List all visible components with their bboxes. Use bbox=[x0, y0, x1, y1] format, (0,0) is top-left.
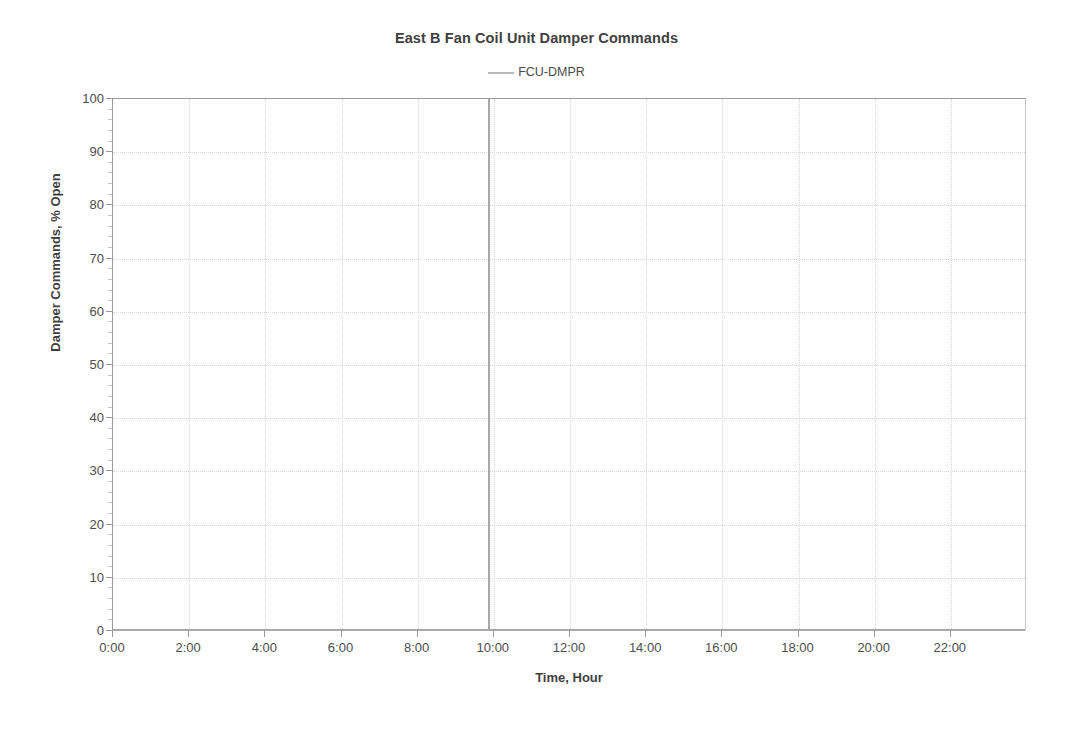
y-axis-minor-tick bbox=[108, 609, 112, 610]
x-axis-tick-label: 20:00 bbox=[857, 640, 890, 655]
y-axis-tick-label: 30 bbox=[62, 463, 104, 478]
y-axis-minor-tick bbox=[108, 268, 112, 269]
chart-title: East B Fan Coil Unit Damper Commands bbox=[0, 30, 1073, 46]
x-axis-tick bbox=[645, 630, 646, 637]
x-axis-tick-label: 10:00 bbox=[477, 640, 510, 655]
y-axis-tick-label: 10 bbox=[62, 569, 104, 584]
y-axis-minor-tick bbox=[108, 396, 112, 397]
x-axis-tick-label: 4:00 bbox=[252, 640, 277, 655]
y-axis-minor-tick bbox=[108, 236, 112, 237]
x-axis-tick bbox=[950, 630, 951, 637]
x-axis-tick-label: 16:00 bbox=[705, 640, 738, 655]
x-axis-tick bbox=[112, 630, 113, 637]
y-axis-minor-tick bbox=[108, 460, 112, 461]
y-axis-minor-tick bbox=[108, 332, 112, 333]
x-axis-tick bbox=[721, 630, 722, 637]
y-axis-minor-tick bbox=[108, 172, 112, 173]
series-spike bbox=[488, 99, 490, 631]
gridline-vertical bbox=[951, 99, 952, 629]
gridline-horizontal bbox=[113, 418, 1025, 419]
legend-item-label: FCU-DMPR bbox=[518, 65, 585, 79]
y-axis-minor-tick bbox=[108, 545, 112, 546]
x-axis-tick-label: 22:00 bbox=[934, 640, 967, 655]
y-axis-minor-tick bbox=[108, 183, 112, 184]
x-axis-tick bbox=[417, 630, 418, 637]
legend-item-fcu-dmpr: FCU-DMPR bbox=[488, 65, 585, 79]
gridline-vertical bbox=[494, 99, 495, 629]
y-axis-title: Damper Commands, % Open bbox=[48, 153, 63, 373]
y-axis-minor-tick bbox=[108, 109, 112, 110]
y-axis-minor-tick bbox=[108, 290, 112, 291]
y-axis-minor-tick bbox=[108, 343, 112, 344]
y-axis-minor-tick bbox=[108, 226, 112, 227]
gridline-horizontal bbox=[113, 312, 1025, 313]
y-axis-minor-tick bbox=[108, 385, 112, 386]
gridline-horizontal bbox=[113, 578, 1025, 579]
gridline-horizontal bbox=[113, 471, 1025, 472]
gridline-vertical bbox=[875, 99, 876, 629]
y-axis-tick-label: 20 bbox=[62, 516, 104, 531]
x-axis-tick bbox=[493, 630, 494, 637]
x-axis-tick-label: 12:00 bbox=[553, 640, 586, 655]
plot-area bbox=[112, 98, 1026, 630]
y-axis-minor-tick bbox=[108, 407, 112, 408]
y-axis-minor-tick bbox=[108, 481, 112, 482]
y-axis-minor-tick bbox=[108, 321, 112, 322]
x-axis-tick bbox=[264, 630, 265, 637]
y-axis-minor-tick bbox=[108, 130, 112, 131]
x-axis-tick bbox=[798, 630, 799, 637]
legend-line-swatch-icon bbox=[488, 72, 514, 74]
gridline-horizontal bbox=[113, 365, 1025, 366]
y-axis-minor-tick bbox=[108, 428, 112, 429]
x-axis-tick-label: 8:00 bbox=[404, 640, 429, 655]
y-axis-minor-tick bbox=[108, 375, 112, 376]
y-axis-tick-label: 80 bbox=[62, 197, 104, 212]
y-axis-minor-tick bbox=[108, 566, 112, 567]
y-axis-minor-tick bbox=[108, 353, 112, 354]
gridline-vertical bbox=[189, 99, 190, 629]
y-axis-minor-tick bbox=[108, 162, 112, 163]
y-axis-minor-tick bbox=[108, 247, 112, 248]
x-axis-tick-label: 2:00 bbox=[176, 640, 201, 655]
y-axis-minor-tick bbox=[108, 438, 112, 439]
y-axis-minor-tick bbox=[108, 587, 112, 588]
x-axis-tick-label: 18:00 bbox=[781, 640, 814, 655]
gridline-vertical bbox=[799, 99, 800, 629]
gridline-vertical bbox=[722, 99, 723, 629]
x-axis-major-ticks bbox=[112, 630, 1026, 638]
y-axis-minor-tick bbox=[108, 141, 112, 142]
gridline-vertical bbox=[265, 99, 266, 629]
gridline-horizontal bbox=[113, 152, 1025, 153]
y-axis-minor-tick bbox=[108, 556, 112, 557]
y-axis-tick-label: 50 bbox=[62, 357, 104, 372]
chart-legend: FCU-DMPR bbox=[0, 65, 1073, 79]
gridline-horizontal bbox=[113, 205, 1025, 206]
y-axis-minor-tick bbox=[108, 215, 112, 216]
gridline-horizontal bbox=[113, 259, 1025, 260]
x-axis-tick bbox=[874, 630, 875, 637]
x-axis-tick-labels: 0:002:004:006:008:0010:0012:0014:0016:00… bbox=[112, 640, 1026, 660]
y-axis-minor-tick bbox=[108, 119, 112, 120]
x-axis-tick bbox=[569, 630, 570, 637]
gridline-vertical bbox=[570, 99, 571, 629]
y-axis-tick-label: 40 bbox=[62, 410, 104, 425]
y-axis-minor-tick bbox=[108, 619, 112, 620]
y-axis-minor-tick bbox=[108, 513, 112, 514]
y-axis-minor-tick bbox=[108, 534, 112, 535]
y-axis-minor-tick bbox=[108, 449, 112, 450]
x-axis-tick bbox=[188, 630, 189, 637]
y-axis-tick-label: 100 bbox=[62, 91, 104, 106]
y-axis-minor-tick bbox=[108, 598, 112, 599]
y-axis-minor-tick bbox=[108, 279, 112, 280]
gridline-vertical bbox=[646, 99, 647, 629]
y-axis-minor-ticks bbox=[108, 98, 113, 630]
x-axis-tick-label: 14:00 bbox=[629, 640, 662, 655]
chart-container: East B Fan Coil Unit Damper Commands FCU… bbox=[0, 0, 1073, 733]
gridline-horizontal bbox=[113, 525, 1025, 526]
gridline-vertical bbox=[418, 99, 419, 629]
y-axis-tick-labels: 0102030405060708090100 bbox=[58, 98, 104, 630]
y-axis-minor-tick bbox=[108, 502, 112, 503]
x-axis-tick bbox=[341, 630, 342, 637]
y-axis-minor-tick bbox=[108, 492, 112, 493]
y-axis-minor-tick bbox=[108, 300, 112, 301]
